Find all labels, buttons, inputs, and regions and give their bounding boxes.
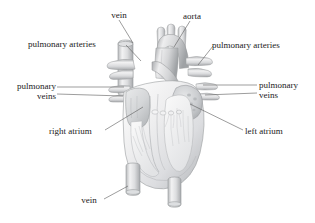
heart-illustration-canvas [0,0,315,223]
label-pulmonary-veins-left: pulmonary veins [2,81,56,101]
descending-aorta-opening [168,202,181,207]
pulmonary-artery-right-lower [188,68,212,77]
pulmonary-artery-right-branches [186,57,213,77]
label-vein-bottom: vein [74,195,104,205]
pulmonary-artery-left-lower [109,70,133,80]
leader-vein-bottom [104,186,128,199]
leader-pulmonary-veins-left-lower [57,94,123,96]
superior-vena-cava-opening [118,41,133,46]
label-pulmonary-veins-left-line1: pulmonary [2,81,56,91]
label-right-atrium: right atrium [49,126,92,136]
label-pulmonary-veins-right: pulmonary veins [259,80,313,100]
label-left-atrium: left atrium [245,126,283,136]
inferior-vena-cava-opening [126,190,140,195]
pulmonary-artery-right-upper [186,57,213,66]
label-pulmonary-veins-right-line2: veins [259,90,313,100]
pulmonary-vein-right-upper [196,83,218,90]
label-pulmonary-veins-right-line1: pulmonary [259,80,313,90]
pulmonary-artery-left-branches [107,59,135,79]
label-pulmonary-veins-left-line2: veins [2,91,56,101]
label-pulmonary-arteries-right: pulmonary arteries [212,40,280,50]
label-pulmonary-arteries-left: pulmonary arteries [28,39,96,49]
heart-anatomy-figure: vein aorta pulmonary arteries pulmonary … [0,0,315,223]
leader-vein-top [119,20,133,43]
label-aorta: aorta [172,11,212,21]
pulmonary-artery-left-upper [107,59,135,70]
label-vein-top: vein [96,10,142,20]
